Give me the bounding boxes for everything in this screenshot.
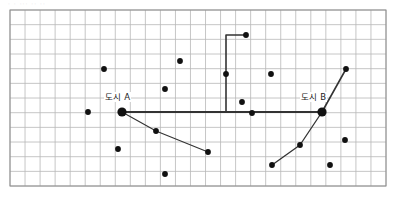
point-node: [327, 162, 333, 168]
point-node: [101, 66, 107, 72]
point-node: [85, 109, 91, 115]
city-node-city-b: [317, 107, 326, 116]
point-node: [269, 162, 275, 168]
point-node: [343, 66, 349, 72]
label-city-b: 도시 B: [300, 92, 327, 102]
point-node: [205, 149, 211, 155]
point-node: [268, 71, 274, 77]
label-city-a: 도시 A: [104, 92, 131, 102]
point-node: [162, 86, 168, 92]
route-route-southwest: [122, 112, 208, 152]
city-node-city-a: [117, 107, 126, 116]
point-node: [342, 137, 348, 143]
point-node: [177, 58, 183, 64]
point-node: [243, 32, 249, 38]
point-node: [249, 110, 255, 116]
grid-map-canvas: [0, 0, 397, 198]
point-node: [239, 99, 245, 105]
point-node: [297, 142, 303, 148]
point-node: [153, 128, 159, 134]
point-node: [162, 171, 168, 177]
point-node: [115, 146, 121, 152]
figure-root: · · ··· ·· ·· 도시 A도시 B: [0, 0, 397, 198]
point-node: [223, 71, 229, 77]
